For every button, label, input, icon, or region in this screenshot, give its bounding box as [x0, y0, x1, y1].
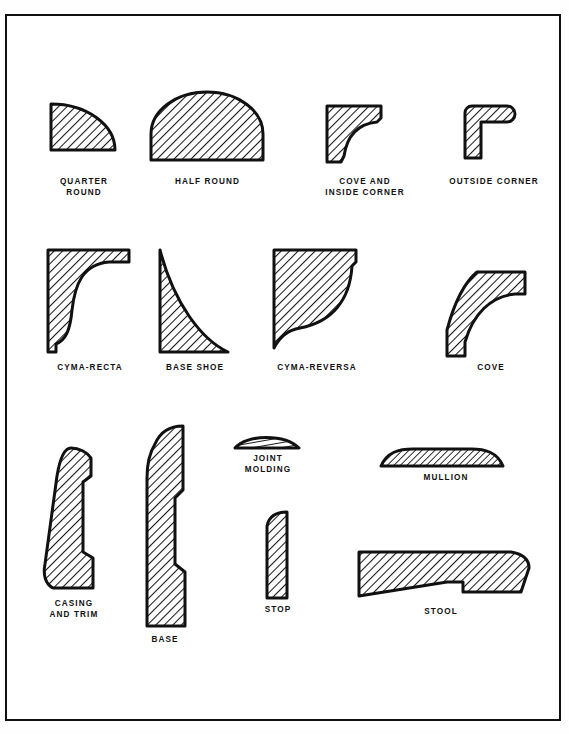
caption-outside-corner: OUTSIDE CORNER — [437, 176, 551, 187]
figure-cyma-recta — [39, 240, 139, 360]
cove-strip-profile — [435, 256, 550, 366]
base-shoe-profile — [152, 240, 242, 360]
caption-mullion: MULLION — [405, 472, 487, 483]
cyma-reversa-profile — [266, 240, 368, 360]
figure-stop — [255, 504, 303, 609]
figure-cyma-reversa — [266, 240, 368, 360]
caption-casing-and-trim: CASING AND TRIM — [29, 598, 119, 620]
stop-profile — [255, 504, 303, 609]
quarter-round-profile — [47, 92, 127, 162]
figure-cove-inside-corner — [319, 96, 399, 176]
casing-and-trim-profile — [35, 436, 115, 606]
figure-outside-corner — [451, 96, 531, 176]
figure-casing-and-trim — [35, 436, 115, 606]
caption-cyma-reversa: CYMA-REVERSA — [263, 362, 371, 373]
figure-cove — [435, 256, 550, 366]
half-round-profile — [147, 92, 272, 162]
caption-cyma-recta: CYMA-RECTA — [41, 362, 139, 373]
caption-cove: COVE — [450, 362, 532, 373]
caption-cove-inside-corner: COVE AND INSIDE CORNER — [313, 176, 417, 198]
caption-base-shoe: BASE SHOE — [147, 362, 243, 373]
caption-joint-molding: JOINT MOLDING — [233, 453, 303, 475]
figure-stool — [351, 538, 541, 610]
joint-molding-profile — [229, 426, 309, 456]
base-profile — [133, 418, 203, 638]
cyma-recta-profile — [39, 240, 139, 360]
caption-quarter-round: QUARTER ROUND — [45, 176, 123, 198]
diagram-page: QUARTER ROUND HALF ROUND COVE AND INSIDE… — [0, 0, 569, 734]
figure-base-shoe — [152, 240, 242, 360]
outside-corner-profile — [451, 96, 531, 176]
figure-quarter-round — [47, 92, 127, 162]
cove-inside-corner-profile — [319, 96, 399, 176]
caption-stool: STOOL — [405, 606, 477, 617]
caption-base: BASE — [133, 634, 197, 645]
plate-border: QUARTER ROUND HALF ROUND COVE AND INSIDE… — [5, 14, 561, 721]
figure-joint-molding — [229, 426, 309, 456]
caption-half-round: HALF ROUND — [155, 176, 260, 187]
mullion-profile — [373, 440, 513, 474]
stool-profile — [351, 538, 541, 610]
caption-stop: STOP — [249, 604, 307, 615]
figure-half-round — [147, 92, 272, 162]
figure-mullion — [373, 440, 513, 474]
figure-base — [133, 418, 203, 638]
